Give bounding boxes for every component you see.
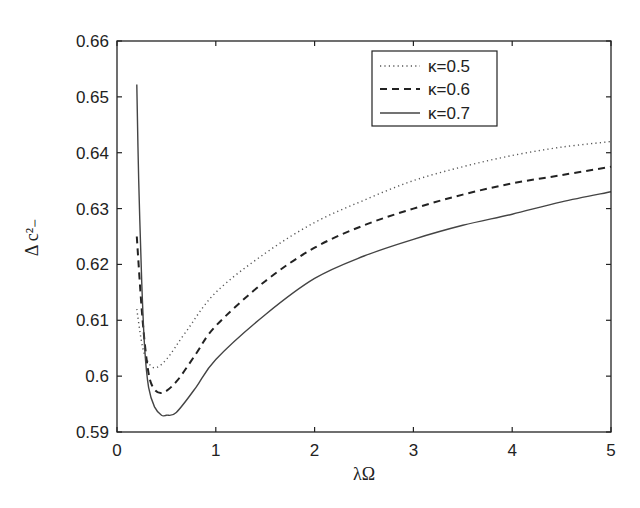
y-tick-label: 0.62 xyxy=(76,255,109,274)
legend-label-0: κ=0.5 xyxy=(428,57,470,76)
x-tick-label: 1 xyxy=(211,441,220,460)
x-tick-label: 2 xyxy=(310,441,319,460)
tick-labels: 0123450.590.60.610.620.630.640.650.66 xyxy=(76,32,616,460)
y-tick-label: 0.63 xyxy=(76,200,109,219)
line-chart: 0123450.590.60.610.620.630.640.650.66 λΩ… xyxy=(0,0,640,508)
axes-frame xyxy=(117,41,611,432)
y-tick-label: 0.64 xyxy=(76,144,109,163)
x-axis-label: λΩ xyxy=(353,464,375,484)
plot-area xyxy=(137,85,611,416)
y-tick-label: 0.6 xyxy=(85,367,109,386)
legend-label-2: κ=0.7 xyxy=(428,104,470,123)
y-tick-label: 0.59 xyxy=(76,423,109,442)
legend: κ=0.5 κ=0.6 κ=0.7 xyxy=(372,51,497,126)
series-line-dotted xyxy=(137,142,611,368)
legend-label-1: κ=0.6 xyxy=(428,80,470,99)
series-line-solid xyxy=(137,85,611,416)
y-tick-label: 0.66 xyxy=(76,32,109,51)
x-tick-label: 0 xyxy=(112,441,121,460)
y-tick-label: 0.65 xyxy=(76,88,109,107)
x-tick-label: 5 xyxy=(606,441,615,460)
x-tick-label: 4 xyxy=(507,441,516,460)
x-tick-label: 3 xyxy=(409,441,418,460)
axis-ticks xyxy=(117,41,611,432)
y-axis-label: Δ c²₋ xyxy=(22,218,42,256)
series-line-dashed xyxy=(137,167,611,393)
y-tick-label: 0.61 xyxy=(76,311,109,330)
